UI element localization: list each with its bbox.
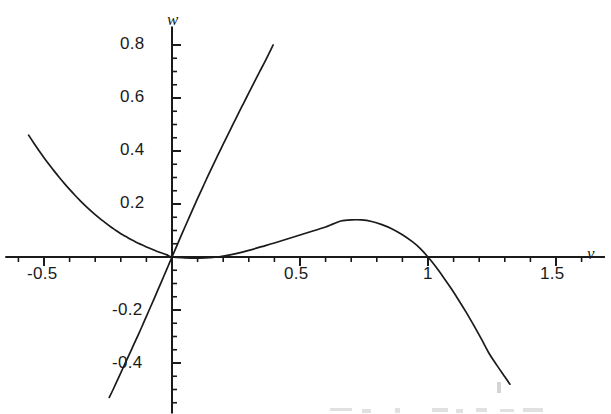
- curve-cubic-nullcline: [29, 135, 510, 384]
- scan-artifact-2: [362, 409, 371, 413]
- y-axis-label: w: [167, 10, 178, 30]
- scan-artifact-6: [476, 408, 487, 412]
- axis-lines: [5, 26, 605, 413]
- y-tick-label-04: 0.4: [120, 140, 145, 160]
- y-tick-label-neg04: -0.4: [112, 353, 143, 373]
- plot-canvas: [0, 0, 611, 414]
- y-tick-label-neg02: -0.2: [112, 300, 143, 320]
- x-tick-label-1: 1: [423, 264, 433, 284]
- scan-artifact-8: [523, 408, 543, 412]
- scan-artifact-4: [432, 408, 448, 412]
- x-tick-label-15: 1.5: [540, 264, 565, 284]
- axis-ticks: [18, 45, 581, 403]
- x-tick-label-05: 0.5: [284, 264, 309, 284]
- scan-artifact-9: [497, 382, 501, 393]
- data-curves: [29, 45, 510, 397]
- y-tick-label-08: 0.8: [120, 34, 145, 54]
- scan-artifact-7: [500, 409, 514, 412]
- x-axis-label: v: [587, 244, 595, 264]
- scan-artifact-1: [330, 408, 352, 411]
- x-tick-label-neg05: -0.5: [27, 264, 58, 284]
- y-tick-label-06: 0.6: [120, 87, 145, 107]
- y-tick-label-02: 0.2: [120, 193, 145, 213]
- plot-figure: -0.5 0.5 1 1.5 0.8 0.6 0.4 0.2 -0.2 -0.4…: [0, 0, 611, 414]
- scan-artifact-5: [456, 409, 463, 413]
- scan-artifact-3: [395, 408, 400, 413]
